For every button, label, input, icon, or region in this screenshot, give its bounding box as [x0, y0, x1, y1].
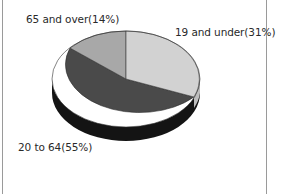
- label-19-and-under: 19 and under(31%): [175, 26, 275, 38]
- label-20-to-64: 20 to 64(55%): [18, 141, 92, 153]
- label-65-and-over: 65 and over(14%): [26, 13, 119, 25]
